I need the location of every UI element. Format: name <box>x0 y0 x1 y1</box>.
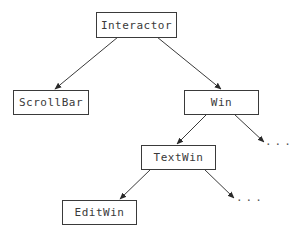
node-win-label: Win <box>211 96 232 109</box>
edge-textwin-to-more <box>204 169 234 198</box>
node-scrollbar-label: ScrollBar <box>19 96 83 109</box>
node-textwin: TextWin <box>141 145 216 170</box>
win-more-ellipsis: ... <box>265 136 294 147</box>
node-editwin: EditWin <box>62 200 137 225</box>
class-hierarchy-diagram: Interactor ScrollBar Win TextWin EditWin… <box>0 0 296 234</box>
textwin-more-ellipsis: ... <box>236 192 265 203</box>
edge-win-to-more <box>234 114 264 142</box>
edge-win-to-textwin <box>177 114 207 144</box>
node-win: Win <box>184 90 259 115</box>
node-scrollbar: ScrollBar <box>13 90 89 115</box>
node-editwin-label: EditWin <box>75 206 125 219</box>
edge-textwin-to-editwin <box>120 169 151 199</box>
edge-interactor-to-scrollbar <box>55 37 118 89</box>
node-textwin-label: TextWin <box>154 151 204 164</box>
node-interactor: Interactor <box>96 12 177 38</box>
edge-interactor-to-win <box>157 37 221 89</box>
node-interactor-label: Interactor <box>101 19 172 32</box>
